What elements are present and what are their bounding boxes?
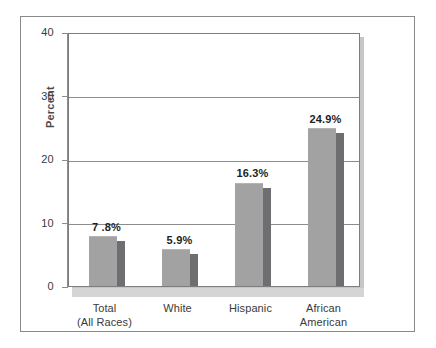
category-label-line2: (All Races) [60, 315, 150, 329]
category-label-line1: African [306, 302, 341, 314]
y-axis-tick-mark [62, 223, 68, 224]
gridline [69, 97, 359, 98]
plot-area: 7 .8%5.9%16.3%24.9% [68, 33, 360, 287]
y-axis-tick-label: 30 [28, 90, 54, 102]
bar-3d-shadow [336, 133, 344, 286]
x-axis-category-label: AfricanAmerican [279, 301, 369, 329]
y-axis-tick-mark [62, 287, 68, 288]
bar-face [89, 236, 117, 286]
y-axis-tick-label: 0 [28, 280, 54, 292]
y-axis-tick-label: 10 [28, 217, 54, 229]
bar-3d-shadow [263, 188, 271, 287]
y-axis-tick-mark [62, 160, 68, 161]
category-label-line1: White [163, 302, 192, 314]
bar-value-label: 7 .8% [75, 221, 139, 233]
bar[interactable] [89, 236, 125, 286]
category-label-line2: American [279, 315, 369, 329]
bar-value-label: 16.3% [221, 167, 285, 179]
bar-value-label: 24.9% [294, 113, 358, 125]
y-axis-tick-mark [62, 33, 68, 34]
y-axis-tick-mark [62, 96, 68, 97]
bar[interactable] [308, 128, 344, 286]
bar[interactable] [235, 183, 271, 287]
bar-face [235, 183, 263, 287]
bar-3d-shadow [190, 254, 198, 286]
bar-3d-shadow [117, 241, 125, 286]
bar-face [162, 249, 190, 286]
baseline-floor-band [72, 288, 364, 297]
y-axis-tick-label: 20 [28, 153, 54, 165]
y-axis-tick-label: 40 [28, 26, 54, 38]
category-label-line1: Total [93, 302, 117, 314]
bar-value-label: 5.9% [148, 234, 212, 246]
bar-face [308, 128, 336, 286]
category-label-line1: Hispanic [229, 302, 272, 314]
bar[interactable] [162, 249, 198, 286]
